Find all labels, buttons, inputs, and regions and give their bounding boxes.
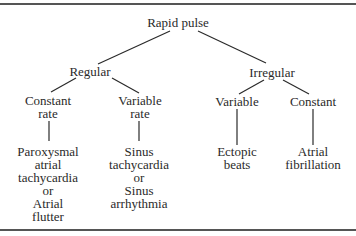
edge-root-irregular <box>198 31 266 63</box>
node-label-line: Variable <box>215 95 258 108</box>
outcome-sinus: Sinus tachycardia or Sinus arrhythmia <box>109 145 169 210</box>
edge-irregular-constant <box>283 80 309 94</box>
outcome-line: arrhythmia <box>109 197 169 210</box>
node-regular: Regular <box>69 65 110 78</box>
edge-regular-constant <box>51 78 76 92</box>
node-irregular-variable: Variable <box>215 95 258 108</box>
node-label: Regular <box>69 64 110 79</box>
node-label-line: Constant <box>290 95 336 108</box>
outcome-line: beats <box>217 158 257 171</box>
outcome-paroxysmal-atrial: Paroxysmal atrial tachycardia or Atrial … <box>17 145 78 223</box>
node-irregular-constant: Constant <box>290 95 336 108</box>
node-label-line: rate <box>25 107 71 120</box>
outcome-ectopic-beats: Ectopic beats <box>217 145 257 171</box>
node-irregular: Irregular <box>249 66 294 79</box>
node-rapid-pulse: Rapid pulse <box>147 16 209 29</box>
node-constant-rate: Constant rate <box>25 94 71 120</box>
node-label: Rapid pulse <box>147 15 209 30</box>
outcome-line: fibrillation <box>285 158 341 171</box>
outcome-line: flutter <box>17 210 78 223</box>
outcome-atrial-fibrillation: Atrial fibrillation <box>285 145 341 171</box>
edge-irregular-variable <box>239 80 264 94</box>
edge-regular-variable <box>112 78 139 93</box>
node-label-line: rate <box>118 107 161 120</box>
node-variable-rate: Variable rate <box>118 94 161 120</box>
node-label: Irregular <box>249 65 294 80</box>
edge-root-regular <box>98 31 170 64</box>
